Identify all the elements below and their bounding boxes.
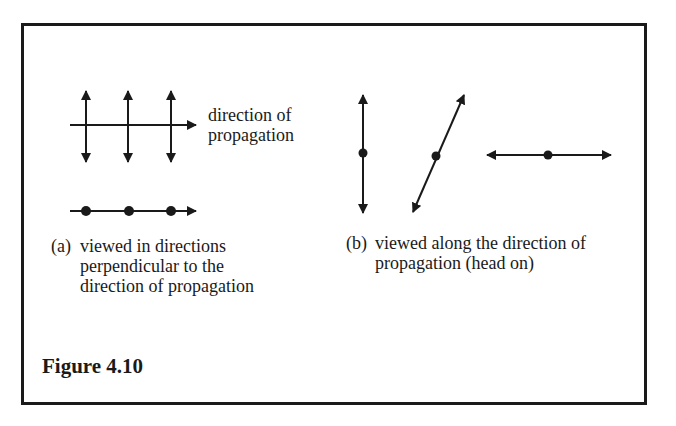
caption-a-prefix: (a)	[51, 236, 80, 256]
caption-b: (b)viewed along the direction of propaga…	[346, 233, 586, 273]
edge-on-dot-2	[124, 206, 134, 216]
caption-a-line3: direction of propagation	[80, 276, 254, 296]
caption-b-prefix: (b)	[346, 233, 375, 253]
panel-b-head-on-views	[359, 95, 612, 213]
diagonal-center-dot	[432, 152, 441, 161]
caption-a-line2: perpendicular to the	[80, 256, 224, 276]
panel-a-top-view	[70, 206, 196, 216]
caption-a-line1: viewed in directions	[80, 236, 226, 256]
edge-on-dot-1	[81, 206, 91, 216]
propagation-label-line2: propagation	[208, 125, 294, 145]
horizontal-center-dot	[544, 151, 553, 160]
vertical-center-dot	[359, 149, 368, 158]
figure-title: Figure 4.10	[42, 354, 143, 379]
edge-on-dot-3	[166, 206, 176, 216]
caption-b-line2: propagation (head on)	[375, 253, 534, 273]
propagation-label-line1: direction of	[208, 105, 294, 125]
panel-a-side-view	[70, 91, 196, 162]
caption-a: (a)viewed in directions perpendicular to…	[51, 236, 254, 296]
caption-b-line1: viewed along the direction of	[375, 233, 586, 253]
propagation-label: direction of propagation	[208, 105, 294, 145]
